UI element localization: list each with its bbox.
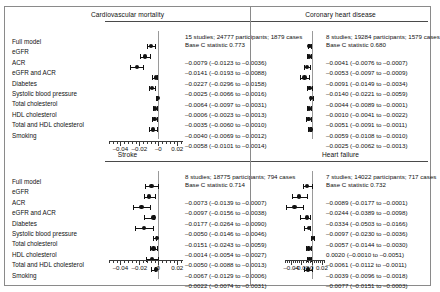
estimate-value-systolic-blood-pressure: –0.0044 (–0.0089 to –0.0001) <box>326 100 408 110</box>
confidence-interval-cap <box>300 75 301 80</box>
confidence-interval-cap <box>145 184 146 189</box>
point-estimate-marker <box>305 184 309 188</box>
confidence-interval-cap <box>311 106 312 111</box>
title-rule-cvm <box>105 21 250 22</box>
row-label-list-2: Full modeleGFRACReGFR and ACRDiabetesSys… <box>12 177 108 281</box>
panel-coronary-heart-disease: Coronary heart disease 8 studies; 19284 … <box>250 7 430 147</box>
title-rule-stroke <box>105 161 250 162</box>
estimate-value-egfr: –0.0089 (–0.0177 to –0.0001) <box>326 198 408 208</box>
row-label-list: Full modeleGFRACReGFR and ACRDiabetesSys… <box>12 37 108 141</box>
point-estimate-marker <box>155 236 159 240</box>
panel-stats-heart-failure: 7 studies; 14022 participants; 717 cases… <box>326 173 436 189</box>
forest-marker-total-and-hdl-cholesterol <box>285 114 325 124</box>
forest-marker-egfr <box>285 181 325 191</box>
forest-marker-egfr-and-acr <box>285 202 325 212</box>
title-rule-hf <box>251 161 428 162</box>
point-estimate-marker <box>149 184 153 188</box>
estimate-value-total-cholesterol: 0.0020 (–0.0010 to –0.0051) <box>326 250 408 260</box>
estimate-value-acr: –0.0053 (–0.0097 to –0.0009) <box>326 68 408 78</box>
estimate-value-hdl-cholesterol: –0.0051 (–0.0091 to –0.0011) <box>326 120 408 130</box>
confidence-interval-cap <box>311 246 312 251</box>
confidence-interval-cap <box>155 44 156 49</box>
panel-title-stroke: Stroke <box>5 151 250 158</box>
point-estimate-marker <box>151 215 155 219</box>
axis-tick-minor <box>166 142 167 144</box>
axis-tick-minor <box>109 142 110 144</box>
estimate-value-diabetes: –0.0097 (–0.0230 to –0.0036) <box>326 229 408 239</box>
forest-marker-egfr-and-acr <box>109 202 183 212</box>
estimate-value-acr: –0.0244 (–0.0389 to –0.0098) <box>326 208 408 218</box>
point-estimate-marker <box>135 65 139 69</box>
studies-line: 8 studies; 19284 participants; 1579 case… <box>326 33 440 41</box>
forest-marker-acr <box>109 192 183 202</box>
point-estimate-marker <box>150 86 154 90</box>
panel-title-heart-failure: Heart failure <box>251 151 430 158</box>
forest-marker-hdl-cholesterol <box>285 244 325 254</box>
panel-cardiovascular-mortality: Cardiovascular mortality Full modeleGFRA… <box>5 7 250 147</box>
confidence-interval-cap <box>158 184 159 189</box>
confidence-interval-cap <box>286 205 287 210</box>
row-label-hdl-cholesterol: HDL cholesterol <box>12 250 108 260</box>
confidence-interval-cap <box>153 226 154 231</box>
panel-heart-failure: Heart failure 7 studies; 14022 participa… <box>250 147 430 285</box>
forest-marker-diabetes <box>109 213 183 223</box>
row-label-total-cholesterol: Total cholesterol <box>12 239 108 249</box>
confidence-interval-cap <box>309 75 310 80</box>
row-label-full-model: Full model <box>12 177 108 187</box>
row-label-egfr-and-acr: eGFR and ACR <box>12 68 108 78</box>
forest-marker-diabetes <box>285 73 325 83</box>
panel-stroke: Stroke Full modeleGFRACReGFR and ACRDiab… <box>5 147 250 285</box>
confidence-interval-cap <box>157 246 158 251</box>
forest-marker-egfr <box>285 41 325 51</box>
panel-stats-coronary-heart-disease: 8 studies; 19284 participants; 1579 case… <box>326 33 440 49</box>
forest-marker-acr <box>285 192 325 202</box>
point-estimate-marker <box>307 54 311 58</box>
axis-tick-label: 0.02 <box>316 264 328 271</box>
point-estimate-marker <box>147 194 151 198</box>
confidence-interval-cap <box>152 75 153 80</box>
estimate-value-diabetes: –0.0140 (–0.0221 to –0.0059) <box>326 89 408 99</box>
confidence-interval-cap <box>157 127 158 132</box>
point-estimate-marker <box>307 226 311 230</box>
axis-tick-minor <box>151 142 152 144</box>
plot-area-coronary-heart-disease <box>285 31 325 139</box>
forest-marker-egfr <box>109 181 183 191</box>
confidence-interval-cap <box>157 117 158 122</box>
forest-marker-egfr-and-acr <box>109 62 183 72</box>
row-label-acr: ACR <box>12 198 108 208</box>
confidence-interval-cap <box>312 86 313 91</box>
point-estimate-marker <box>305 215 309 219</box>
forest-marker-egfr <box>109 41 183 51</box>
x-axis-heart-failure: –0.04–0.0200.02 <box>285 260 325 272</box>
forest-marker-hdl-cholesterol <box>109 104 183 114</box>
point-estimate-marker <box>302 75 306 79</box>
point-estimate-marker <box>143 54 147 58</box>
axis-tick-minor <box>109 261 110 263</box>
confidence-interval-cap <box>144 194 145 199</box>
row-label-egfr-and-acr: eGFR and ACR <box>12 208 108 218</box>
confidence-interval-cap <box>149 127 150 132</box>
base-c-line: Base C statistic 0.732 <box>326 181 436 189</box>
row-label-total-cholesterol: Total cholesterol <box>12 99 108 109</box>
forest-marker-systolic-blood-pressure <box>109 83 183 93</box>
row-label-smoking: Smoking <box>12 271 108 281</box>
axis-tick-minor <box>314 261 315 263</box>
estimate-value-systolic-blood-pressure: –0.0057 (–0.0144 to –0.0030) <box>326 240 408 250</box>
confidence-interval-cap <box>303 205 304 210</box>
panel-title-cardiovascular-mortality: Cardiovascular mortality <box>5 11 250 18</box>
row-label-full-model: Full model <box>12 37 108 47</box>
point-estimate-marker <box>151 246 155 250</box>
confidence-interval-cap <box>150 54 151 59</box>
base-c-line: Base C statistic 0.680 <box>326 41 440 49</box>
point-estimate-marker <box>306 246 310 250</box>
confidence-interval-cap <box>311 54 312 59</box>
point-estimate-marker <box>307 106 311 110</box>
point-estimate-marker <box>306 117 310 121</box>
forest-marker-total-cholesterol <box>285 93 325 103</box>
row-label-diabetes: Diabetes <box>12 219 108 229</box>
estimate-value-egfr-and-acr: –0.0091 (–0.0149 to –0.0034) <box>326 79 408 89</box>
axis-tick-label: –0.04 <box>113 264 128 271</box>
confidence-interval-cap <box>310 65 311 70</box>
axis-tick-label: –0.02 <box>132 264 147 271</box>
point-estimate-marker <box>149 44 153 48</box>
